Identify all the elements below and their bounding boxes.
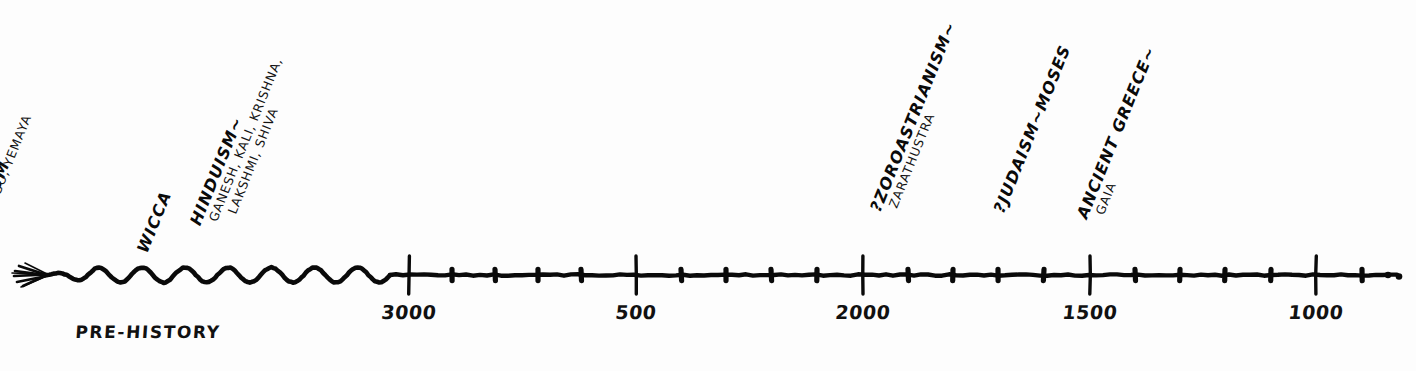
event-label-stack: ?ZOROASTRIANISM~ZARATHUSTRA — [867, 19, 973, 220]
arrowhead-stroke — [21, 275, 48, 287]
event-title: ?JUDAISM~MOSES — [991, 42, 1074, 215]
axis-group — [12, 256, 1402, 294]
arrowhead-stroke — [23, 275, 48, 287]
arrowhead-stroke — [25, 263, 48, 275]
axis-tick-label-2000: 2000 — [834, 301, 891, 323]
axis-ellipsis-dot — [1385, 272, 1392, 279]
arrowhead-stroke — [14, 274, 48, 276]
axis-tick-label-1000: 1000 — [1287, 301, 1344, 323]
axis-tick-label-3000: 3000 — [380, 301, 437, 323]
event-title: ?ZOROASTRIANISM~ — [867, 19, 959, 214]
axis-minor-tick — [771, 269, 772, 280]
event-label-stack: HINDUISM~GANESH, KALI, KRISHNA,LAKSHMI, … — [187, 49, 300, 238]
timeline-event-ancient-greece[interactable]: ANCIENT GREECE~GAIA — [1243, 112, 1342, 295]
timeline-diagram: PRE-HISTORY 3000500200015001000 ANIMISMV… — [0, 0, 1416, 371]
axis-minor-tick — [1135, 269, 1136, 280]
axis-ellipsis-dot — [1396, 273, 1403, 280]
arrowhead-stroke — [12, 273, 48, 274]
axis-tick-label-2500: 500 — [614, 301, 657, 323]
arrowhead-stroke — [15, 271, 48, 275]
axis-minor-tick — [908, 269, 909, 280]
event-label-stack: ANCIENT GREECE~GAIA — [1074, 44, 1173, 227]
event-label-stack: VODUN~CHANGO, YEMAYA — [0, 106, 35, 243]
axis-minor-tick — [681, 269, 682, 280]
axis-minor-tick — [1043, 269, 1044, 280]
arrowhead-stroke — [17, 276, 48, 282]
arrowhead-stroke — [19, 266, 48, 275]
axis-major-tick — [1316, 256, 1317, 294]
era-label-pre-history: PRE-HISTORY — [75, 322, 222, 342]
axis-tick-label-1500: 1500 — [1061, 301, 1118, 323]
timeline-event-judaism[interactable]: ?JUDAISM~MOSES — [1151, 107, 1234, 280]
timeline-event-hinduism[interactable]: HINDUISM~GANESH, KALI, KRISHNA,LAKSHMI, … — [363, 120, 476, 309]
axis-minor-tick — [581, 269, 582, 280]
event-label-stack: ?JUDAISM~MOSES — [991, 42, 1074, 215]
